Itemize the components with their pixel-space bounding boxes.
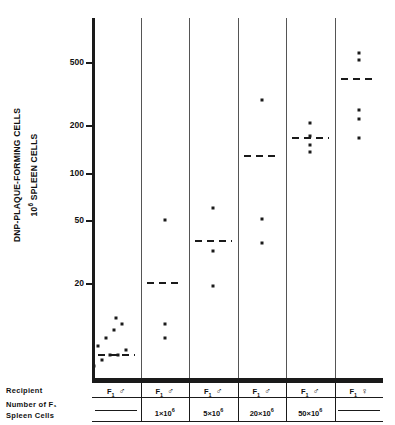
median-line <box>341 78 378 80</box>
y-tick-label: 50 <box>75 215 84 225</box>
column-divider <box>189 18 190 378</box>
footer-spleen-cells-cell: 5×106 <box>189 403 238 417</box>
data-point <box>260 241 263 244</box>
footer-recipient-cell: F1 ♂ <box>92 385 141 397</box>
row-label-cells-line1: Number of F₁ <box>6 400 57 409</box>
footer-row-labels: Recipient Number of F₁ Spleen Cells <box>6 381 90 425</box>
figure-root: DNP-PLAQUE-FORMING CELLS 106 SPLEEN CELL… <box>0 0 395 425</box>
data-point <box>109 353 112 356</box>
data-point <box>101 359 104 362</box>
data-point <box>212 285 215 288</box>
footer-recipient-cell: F1 ♂ <box>286 385 335 397</box>
y-axis-title-line1: DNP-PLAQUE-FORMING CELLS <box>11 108 24 242</box>
data-point <box>357 108 360 111</box>
footer-spleen-cells-cell: 1×106 <box>141 403 190 417</box>
footer-spleen-cells-cell <box>335 403 384 417</box>
data-point <box>357 58 360 61</box>
data-point <box>105 336 108 339</box>
y-tick-mark <box>86 62 95 64</box>
y-tick-mark <box>86 283 95 285</box>
data-point <box>357 117 360 120</box>
row-label-cells-line2: Spleen Cells <box>6 411 54 420</box>
data-point <box>357 137 360 140</box>
footer-spleen-cells-cell <box>92 403 141 417</box>
column-divider <box>238 18 239 378</box>
data-point <box>309 143 312 146</box>
footer-recipient-cell: F1 ♂ <box>141 385 190 397</box>
y-axis-title: DNP-PLAQUE-FORMING CELLS 106 SPLEEN CELL… <box>8 50 44 300</box>
column-divider <box>141 18 142 378</box>
footer-spleen-cells-cell: 20×106 <box>238 403 287 417</box>
data-point <box>113 329 116 332</box>
y-tick-label: 500 <box>70 57 84 67</box>
y-axis-title-line2: 106 SPLEEN CELLS <box>24 134 41 217</box>
data-point <box>260 98 263 101</box>
data-point <box>97 344 100 347</box>
row-label-recipient: Recipient <box>6 386 42 395</box>
median-line <box>244 155 281 157</box>
footer-grid: F1 ♂F1 ♂F1 ♂F1 ♂F1 ♂F1 ♀1×1065×10620×106… <box>92 381 383 425</box>
data-point <box>115 316 118 319</box>
column-divider <box>335 18 336 378</box>
data-point <box>163 336 166 339</box>
y-tick-mark <box>86 125 95 127</box>
footer-line-bottom <box>92 421 383 422</box>
data-point <box>163 219 166 222</box>
footer-recipient-cell: F1 ♂ <box>189 385 238 397</box>
footer-recipient-cell: F1 ♂ <box>238 385 287 397</box>
footer-spleen-cells-cell: 50×106 <box>286 403 335 417</box>
column-divider <box>286 18 287 378</box>
data-point <box>125 349 128 352</box>
data-point <box>121 322 124 325</box>
y-tick-label: 20 <box>75 278 84 288</box>
data-point <box>357 52 360 55</box>
data-point <box>260 217 263 220</box>
y-axis-line <box>92 18 95 380</box>
data-point <box>309 135 312 138</box>
median-line <box>147 282 184 284</box>
data-point <box>212 249 215 252</box>
plot-area: 2050100200500 <box>92 18 383 380</box>
data-point <box>163 322 166 325</box>
data-point <box>93 364 96 367</box>
data-point <box>309 151 312 154</box>
y-tick-label: 200 <box>70 120 84 130</box>
y-tick-label: 100 <box>70 168 84 178</box>
data-point <box>117 353 120 356</box>
y-tick-mark <box>86 173 95 175</box>
data-point <box>309 122 312 125</box>
footer-recipient-cell: F1 ♀ <box>335 385 384 397</box>
data-point <box>212 206 215 209</box>
y-tick-mark <box>86 220 95 222</box>
median-line <box>195 240 232 242</box>
footer-table: Recipient Number of F₁ Spleen Cells F1 ♂… <box>0 381 395 425</box>
